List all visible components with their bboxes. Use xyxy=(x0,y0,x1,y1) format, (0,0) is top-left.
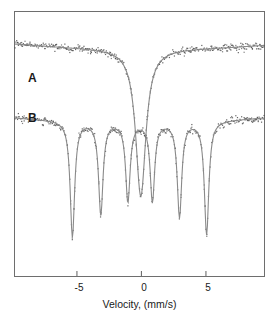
series-label-a: A xyxy=(28,72,37,84)
mossbauer-spectrum-figure: A B -5 0 5 Velocity, (mm/s) xyxy=(0,0,279,323)
x-axis-ticks xyxy=(77,271,206,276)
x-axis-title: Velocity, (mm/s) xyxy=(0,299,279,310)
x-tick-label-zero: 0 xyxy=(124,283,164,293)
plot-canvas xyxy=(0,0,279,323)
series-b-datapoints xyxy=(14,113,264,240)
spectra-svg xyxy=(0,0,279,323)
series-b-fit-curve xyxy=(15,118,264,238)
x-tick-label-pos5: 5 xyxy=(188,283,228,293)
series-label-b: B xyxy=(28,112,37,124)
series-a-datapoints xyxy=(14,40,264,197)
x-tick-label-neg5: -5 xyxy=(59,283,99,293)
